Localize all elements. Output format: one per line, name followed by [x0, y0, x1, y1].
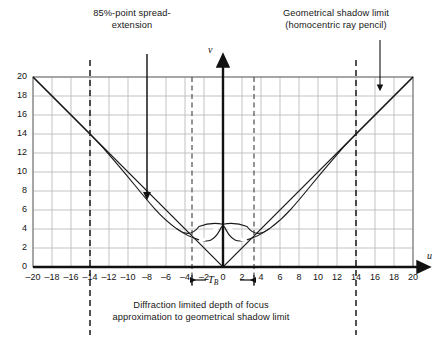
y-tick-4: 4: [5, 223, 27, 233]
x-tick-10: 10: [308, 272, 328, 282]
x-tick-minus-8: –8: [137, 272, 157, 282]
x-tick-8: 8: [289, 272, 309, 282]
y-tick-6: 6: [5, 204, 27, 214]
x-tick-18: 18: [384, 272, 404, 282]
y-tick-2: 2: [5, 242, 27, 252]
y-tick-16: 16: [5, 109, 27, 119]
y-tick-14: 14: [5, 128, 27, 138]
y-tick-12: 12: [5, 147, 27, 157]
x-tick-14: 14: [346, 272, 366, 282]
x-tick-6: 6: [270, 272, 290, 282]
x-tick-2: 2: [232, 272, 252, 282]
tb-subscript: B: [214, 278, 219, 287]
v-axis-label: v: [208, 44, 212, 55]
x-tick-minus-14: –14: [80, 272, 100, 282]
x-tick-minus-12: –12: [99, 272, 119, 282]
x-tick-minus-16: –16: [61, 272, 81, 282]
tb-span-label: TB: [208, 274, 218, 287]
y-tick-8: 8: [5, 185, 27, 195]
annotation-85-percent-point-spread-extension: 85%-point spread- extension: [42, 8, 222, 31]
x-tick-minus-20: –20: [23, 272, 43, 282]
x-tick-20: 20: [403, 272, 423, 282]
x-tick-minus-4: –4: [175, 272, 195, 282]
chart-svg: [0, 0, 442, 346]
figure-container: 20 18 16 14 12 10 8 6 4 2 0 –20 –18 –16 …: [0, 0, 442, 346]
y-tick-10: 10: [5, 166, 27, 176]
u-axis-label: u: [427, 250, 432, 261]
x-tick-minus-6: –6: [156, 272, 176, 282]
annotation-geometrical-shadow-limit: Geometrical shadow limit (homocentric ra…: [236, 8, 436, 31]
y-tick-20: 20: [5, 71, 27, 81]
x-tick-12: 12: [327, 272, 347, 282]
y-tick-18: 18: [5, 90, 27, 100]
x-tick-16: 16: [365, 272, 385, 282]
x-tick-4: 4: [251, 272, 271, 282]
x-tick-minus-18: –18: [42, 272, 62, 282]
x-tick-minus-10: –10: [118, 272, 138, 282]
y-tick-0: 0: [5, 261, 27, 271]
caption-diffraction-limited-depth-of-focus: Diffraction limited depth of focus appro…: [86, 299, 316, 323]
